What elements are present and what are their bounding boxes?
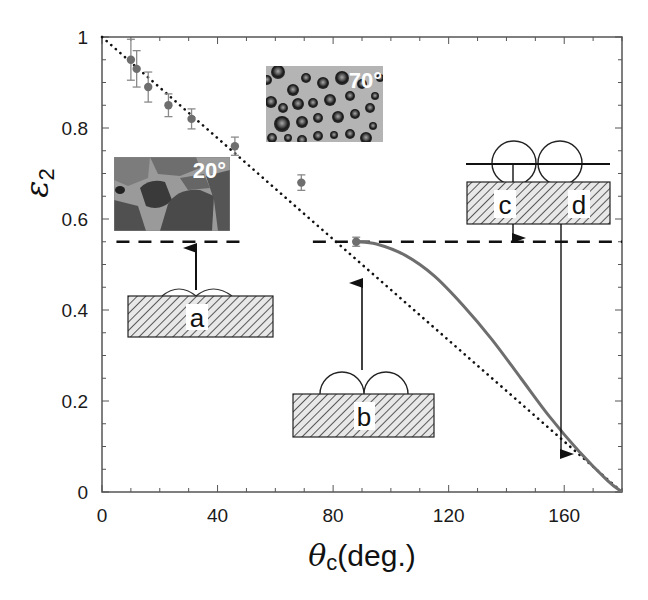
label-b: b: [357, 402, 371, 432]
y-tick-label: 0.8: [62, 118, 88, 139]
data-point: [132, 51, 140, 87]
photo-label-70: 70°: [349, 68, 382, 93]
x-axis-title: θc(deg.): [308, 538, 415, 575]
x-tick-label: 80: [323, 505, 344, 526]
x-tick-label: 160: [548, 505, 580, 526]
y-tick-label: 0: [77, 482, 88, 503]
flat-droplets-icon: [162, 289, 232, 296]
svg-text:θc(deg.): θc(deg.): [308, 538, 415, 575]
x-tick-label: 120: [433, 505, 465, 526]
label-c: c: [499, 190, 512, 220]
y-tick-label: 0.6: [62, 209, 88, 230]
schematic-a: a: [128, 248, 273, 337]
data-point: [231, 137, 239, 155]
data-point: [187, 109, 195, 129]
x-tick-label: 0: [97, 505, 108, 526]
photo-label-20: 20°: [193, 158, 226, 183]
label-a: a: [190, 303, 205, 333]
data-point: [127, 39, 135, 80]
data-point: [352, 237, 360, 246]
hemisphere-droplets-icon: [320, 372, 408, 394]
chart: 0408012016000.20.40.60.81 20° 70° a: [0, 0, 648, 600]
y-tick-label: 0.4: [62, 300, 89, 321]
photo-inset-70deg: 70°: [262, 65, 384, 145]
photo-inset-20deg: 20°: [114, 157, 230, 231]
label-d: d: [572, 190, 586, 220]
y-tick-label: 0.2: [62, 391, 88, 412]
schematic-cd: c d: [466, 141, 610, 454]
x-tick-label: 40: [207, 505, 228, 526]
y-axis-title: ε2: [18, 168, 59, 197]
schematic-b: b: [293, 283, 434, 437]
svg-text:ε2: ε2: [18, 168, 59, 197]
y-tick-label: 1: [77, 27, 88, 48]
model-solid-curve: [356, 242, 622, 492]
data-point: [144, 72, 152, 102]
data-point: [297, 175, 305, 190]
